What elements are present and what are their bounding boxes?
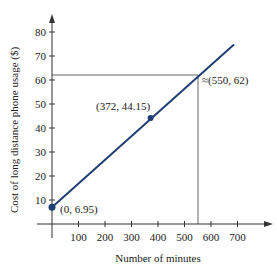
point-label-intersect: ≈(550, 62)	[202, 74, 249, 87]
chart: 100 200 300 400 500 600 700 10 20 30 40 …	[0, 0, 277, 269]
x-tick-label: 700	[229, 231, 246, 243]
y-axis-arrow-icon	[49, 14, 55, 23]
y-tick-label: 50	[35, 98, 47, 110]
y-tick-label: 10	[35, 194, 47, 206]
cost-line	[52, 45, 234, 208]
x-tick-label: 200	[97, 231, 114, 243]
point-label-mid: (372, 44.15)	[96, 100, 150, 113]
x-tick-label: 400	[150, 231, 167, 243]
x-tick-label: 300	[123, 231, 140, 243]
x-axis-title: Number of minutes	[115, 252, 201, 264]
y-tick-label: 70	[35, 50, 47, 62]
y-tick-label: 30	[35, 146, 47, 158]
y-tick-label: 20	[35, 170, 47, 182]
y-tick-label: 40	[35, 122, 47, 134]
x-tick-label: 600	[203, 231, 220, 243]
y-tick-label: 60	[35, 74, 47, 86]
x-tick-label: 100	[70, 231, 87, 243]
point-label-start: (0, 6.95)	[60, 203, 98, 216]
data-point-mid	[148, 115, 154, 121]
y-tick-labels: 10 20 30 40 50 60 70 80	[35, 26, 47, 206]
x-tick-labels: 100 200 300 400 500 600 700	[70, 231, 246, 243]
y-tick-label: 80	[35, 26, 47, 38]
data-point-start	[49, 204, 56, 211]
x-axis-arrow-icon	[264, 221, 273, 227]
y-axis-title: Cost of long distance phone usage ($)	[8, 47, 21, 214]
x-tick-label: 500	[176, 231, 193, 243]
